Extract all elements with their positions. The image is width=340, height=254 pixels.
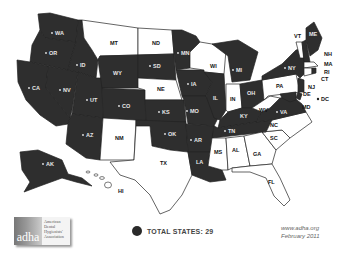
svg-text:ND: ND (152, 40, 160, 46)
svg-text:DE: DE (303, 91, 311, 97)
svg-text:VA: VA (280, 109, 287, 115)
svg-text:PA: PA (276, 83, 283, 89)
svg-text:MI: MI (236, 67, 243, 73)
state-az (66, 114, 103, 160)
svg-text:ID: ID (80, 62, 86, 68)
state-ak (20, 150, 92, 192)
credit-url: www.adha.org (281, 224, 320, 232)
svg-text:HI: HI (118, 188, 124, 194)
us-map: WA OR CA NV ID UT AZ MT WY CO NM ND SD N… (0, 0, 340, 254)
state-de (296, 92, 302, 100)
svg-text:CO: CO (122, 103, 131, 109)
svg-text:KS: KS (162, 109, 170, 115)
svg-text:OR: OR (49, 50, 57, 56)
svg-text:DC: DC (321, 96, 329, 102)
svg-text:WY: WY (113, 70, 122, 76)
svg-text:SC: SC (270, 135, 278, 141)
svg-text:WV: WV (259, 107, 268, 113)
legend: TOTAL STATES: 29 (132, 226, 213, 236)
legend-dark-circle-icon (132, 226, 142, 236)
svg-text:VT: VT (294, 33, 302, 39)
state-nj (298, 78, 304, 92)
svg-text:ME: ME (309, 31, 318, 37)
svg-text:IA: IA (191, 81, 197, 87)
svg-text:MD: MD (302, 104, 311, 110)
logo-text: American Dental Hygienists' Association (42, 217, 64, 245)
svg-text:NC: NC (270, 122, 278, 128)
svg-text:MO: MO (190, 108, 200, 114)
svg-text:KY: KY (240, 113, 248, 119)
svg-text:WI: WI (210, 63, 217, 69)
svg-text:RI: RI (324, 69, 330, 75)
svg-text:WA: WA (55, 30, 64, 36)
svg-text:AK: AK (46, 161, 54, 167)
svg-text:NJ: NJ (308, 84, 315, 90)
svg-text:CA: CA (32, 85, 40, 91)
svg-text:TN: TN (228, 128, 235, 134)
state-ct (304, 68, 312, 76)
svg-text:AR: AR (194, 137, 202, 143)
svg-text:NH: NH (324, 51, 332, 57)
svg-text:SD: SD (153, 63, 161, 69)
svg-text:GA: GA (253, 151, 261, 157)
svg-text:MA: MA (324, 61, 333, 67)
credit-date: February 2011 (281, 232, 320, 240)
svg-text:MN: MN (181, 50, 190, 56)
state-fl (232, 164, 290, 206)
svg-text:CT: CT (321, 76, 329, 82)
adha-logo: adha American Dental Hygienists' Associa… (14, 217, 70, 245)
state-ri (312, 68, 316, 74)
svg-text:NY: NY (288, 65, 296, 71)
state-ma (304, 62, 318, 68)
svg-text:AL: AL (232, 147, 240, 153)
svg-text:AZ: AZ (86, 132, 94, 138)
svg-text:MS: MS (214, 149, 223, 155)
svg-text:MT: MT (110, 40, 119, 46)
state-me (306, 22, 322, 56)
svg-text:NV: NV (63, 87, 71, 93)
credit: www.adha.org February 2011 (281, 224, 320, 240)
svg-text:OH: OH (247, 90, 255, 96)
svg-text:TX: TX (160, 160, 167, 166)
svg-text:NE: NE (157, 86, 165, 92)
legend-label: TOTAL STATES: 29 (147, 228, 213, 235)
logo-mark: adha (14, 217, 42, 245)
svg-text:UT: UT (90, 97, 98, 103)
svg-text:LA: LA (196, 159, 203, 165)
svg-text:IN: IN (230, 96, 236, 102)
svg-text:FL: FL (268, 179, 275, 185)
svg-text:IL: IL (213, 95, 219, 101)
svg-text:NM: NM (115, 135, 124, 141)
svg-text:OK: OK (168, 131, 176, 137)
